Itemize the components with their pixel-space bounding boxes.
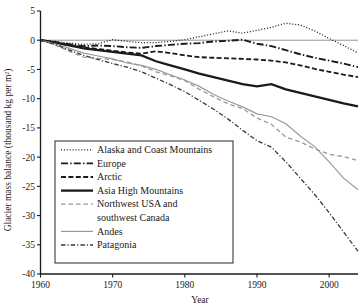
x-tick-label: 1960 (31, 280, 50, 290)
y-tick-label: -40 (22, 269, 35, 279)
y-tick-label: -30 (22, 211, 35, 221)
x-tick-label: 1980 (175, 280, 194, 290)
legend-label: Patagonia (97, 239, 137, 250)
y-tick-label: -10 (22, 94, 35, 104)
legend-label: southwest Canada (97, 212, 170, 223)
y-tick-label: -15 (22, 123, 35, 133)
legend-label: Northwest USA and (97, 198, 178, 209)
x-tick-label: 2000 (320, 280, 339, 290)
x-axis-title: Year (191, 295, 209, 305)
legend-label: Andes (97, 226, 123, 237)
x-tick-label: 1970 (103, 280, 122, 290)
glacier-mass-balance-chart: 50-5-10-15-20-25-30-35-40 19601970198019… (0, 0, 363, 308)
y-tick-label: -20 (22, 153, 35, 163)
glacier-mass-balance-figure: 50-5-10-15-20-25-30-35-40 19601970198019… (0, 0, 363, 308)
legend-label: Asia High Mountains (97, 185, 183, 196)
legend-label: Alaska and Coast Mountains (97, 144, 212, 155)
legend-label: Arctic (97, 171, 123, 182)
y-tick-label: 0 (30, 36, 35, 46)
y-tick-label: -35 (22, 240, 35, 250)
x-tick-label: 1990 (247, 280, 266, 290)
y-tick-label: -5 (27, 65, 35, 75)
y-tick-label: 5 (30, 6, 35, 16)
y-tick-label: -25 (22, 182, 35, 192)
chart-legend: Alaska and Coast MountainsEuropeArcticAs… (55, 141, 233, 263)
y-axis-title: Glacier mass balance (thousand kg per m²… (3, 69, 14, 232)
legend-label: Europe (97, 158, 126, 169)
